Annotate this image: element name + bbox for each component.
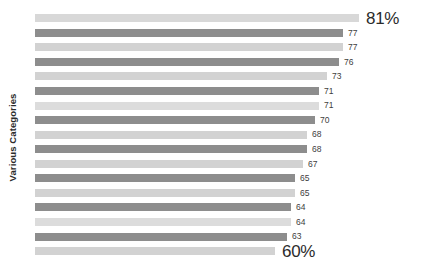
bar-row: 73 xyxy=(35,69,424,84)
bar[interactable] xyxy=(35,29,343,37)
bar-value-label: 65 xyxy=(300,174,309,183)
bar-row: 64 xyxy=(35,215,424,230)
bar-row: 68 xyxy=(35,142,424,157)
bar-value-label: 77 xyxy=(348,29,357,38)
bar-row: 60% xyxy=(35,244,424,259)
y-axis-title-text: Various Categories xyxy=(8,93,19,181)
bar-value-label: 73 xyxy=(332,72,341,81)
bar-value-label: 76 xyxy=(344,58,353,67)
bar-row: 77 xyxy=(35,40,424,55)
bar-value-label: 68 xyxy=(312,145,321,154)
bar-row: 81% xyxy=(35,11,424,26)
bar[interactable] xyxy=(35,189,295,197)
bar-value-label: 60% xyxy=(282,243,315,260)
bar[interactable] xyxy=(35,116,315,124)
bar-value-label: 67 xyxy=(308,160,317,169)
bar-row: 65 xyxy=(35,186,424,201)
bar-value-label: 70 xyxy=(320,116,329,125)
bar[interactable] xyxy=(35,72,327,80)
bar-value-label: 68 xyxy=(312,130,321,139)
bar[interactable] xyxy=(35,58,339,66)
bar-chart: Various Categories 81%777776737171706868… xyxy=(0,0,424,274)
bar-value-label: 77 xyxy=(348,43,357,52)
bar-row: 77 xyxy=(35,26,424,41)
bar-row: 68 xyxy=(35,127,424,142)
bar[interactable] xyxy=(35,43,343,51)
bar-value-label: 64 xyxy=(296,203,305,212)
plot-area: 81%77777673717170686867656564646360% xyxy=(35,11,424,271)
bar-value-label: 71 xyxy=(324,87,333,96)
bar-row: 70 xyxy=(35,113,424,128)
bar-value-label: 63 xyxy=(292,232,301,241)
bar-row: 76 xyxy=(35,55,424,70)
bar[interactable] xyxy=(35,145,307,153)
bar[interactable] xyxy=(35,218,291,226)
bar[interactable] xyxy=(35,131,307,139)
bar-value-label: 71 xyxy=(324,101,333,110)
bar-value-label: 65 xyxy=(300,189,309,198)
bar[interactable] xyxy=(35,247,275,255)
bar[interactable] xyxy=(35,203,291,211)
bar-row: 71 xyxy=(35,98,424,113)
y-axis-title: Various Categories xyxy=(0,0,26,274)
bar-row: 65 xyxy=(35,171,424,186)
bar[interactable] xyxy=(35,160,303,168)
bar-value-label: 81% xyxy=(366,10,399,27)
bar[interactable] xyxy=(35,233,287,241)
bar-value-label: 64 xyxy=(296,218,305,227)
bar-row: 67 xyxy=(35,157,424,172)
bar-row: 63 xyxy=(35,229,424,244)
bar[interactable] xyxy=(35,14,359,22)
bar-row: 64 xyxy=(35,200,424,215)
bar-row: 71 xyxy=(35,84,424,99)
bar[interactable] xyxy=(35,87,319,95)
bar[interactable] xyxy=(35,174,295,182)
bar[interactable] xyxy=(35,102,319,110)
